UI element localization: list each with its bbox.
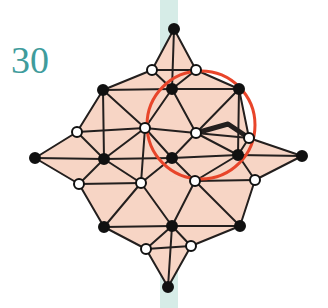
graph-vertex-black [98,85,108,95]
graph-edge [238,89,239,155]
graph-edge [103,90,104,159]
graph-edge [35,158,104,159]
graph-vertex-white [191,128,201,138]
graph-vertex-white [140,123,150,133]
figure-number-label: 30 [11,41,49,79]
triangulation-diagram [0,0,328,308]
graph-edge [238,155,302,156]
graph-vertex-black [99,154,109,164]
graph-vertex-black [233,150,243,160]
graph-vertex-black [167,153,177,163]
graph-vertex-white [136,178,146,188]
graph-vertex-black [163,282,173,292]
graph-vertex-black [167,84,177,94]
graph-vertex-white [190,176,200,186]
graph-vertex-white [72,127,82,137]
graph-vertex-black [169,24,179,34]
graph-vertex-black [30,153,40,163]
graph-vertex-black [234,84,244,94]
graph-vertex-white [250,175,260,185]
graph-edge [104,158,172,159]
graph-vertex-black [235,221,245,231]
graph-vertex-black [167,221,177,231]
graph-vertex-white [141,244,151,254]
graph-vertex-black [297,151,307,161]
graph-vertex-black [99,222,109,232]
graph-vertex-white [74,179,84,189]
graph-vertex-white [244,133,254,143]
graph-vertex-white [186,241,196,251]
graph-edge [79,183,141,184]
graph-vertex-white [147,65,157,75]
graph-vertex-white [191,65,201,75]
figure-canvas: 30 [0,0,328,308]
graph-edge [104,226,172,227]
